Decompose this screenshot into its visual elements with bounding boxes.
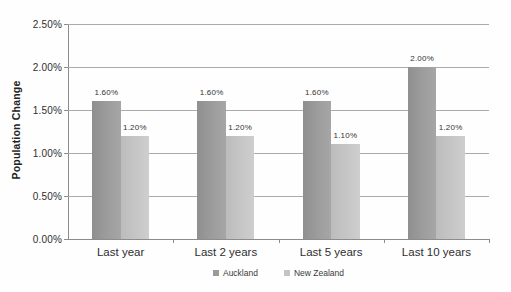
x-axis-tick [173,239,174,243]
bar-new-zealand-last-2-years [226,136,255,239]
chart-legend: AucklandNew Zealand [68,268,489,278]
y-axis-tick-label: 2.50% [0,19,62,30]
y-axis-tick [64,196,68,197]
x-axis-line [65,239,490,240]
y-axis-tick [64,110,68,111]
x-axis-category-label: Last 2 years [173,246,279,258]
x-axis-tick [489,239,490,243]
y-axis-title: Population Change [10,70,22,190]
gridline [68,24,489,25]
y-axis-tick [64,24,68,25]
population-change-bar-chart: Population Change 0.00%0.50%1.00%1.50%2.… [0,0,511,292]
y-axis-tick [64,239,68,240]
bar-new-zealand-last-year [121,136,150,239]
bar-auckland-last-10-years [408,67,437,239]
bar-value-label: 1.20% [113,123,157,132]
y-axis-tick-label: 2.00% [0,62,62,73]
y-axis-tick [64,153,68,154]
bar-new-zealand-last-5-years [331,144,360,239]
y-axis-tick [64,67,68,68]
legend-swatch-icon [284,270,290,276]
bar-auckland-last-5-years [303,101,332,239]
legend-label: Auckland [223,268,258,278]
bar-value-label: 1.60% [295,88,339,97]
x-axis-category-label: Last 5 years [278,246,384,258]
y-axis-tick-label: 0.00% [0,234,62,245]
y-axis-tick-label: 1.50% [0,105,62,116]
legend-label: New Zealand [294,268,344,278]
x-axis-category-label: Last 10 years [383,246,489,258]
bar-value-label: 1.20% [429,123,473,132]
legend-item-auckland: Auckland [213,268,258,278]
bar-value-label: 1.60% [84,88,128,97]
bar-value-label: 2.00% [400,54,444,63]
bar-value-label: 1.20% [218,123,262,132]
bar-new-zealand-last-10-years [436,136,465,239]
bar-value-label: 1.10% [323,131,367,140]
x-axis-tick [279,239,280,243]
y-axis-tick-label: 1.00% [0,148,62,159]
x-axis-category-label: Last year [68,246,174,258]
bar-value-label: 1.60% [190,88,234,97]
y-axis-tick-label: 0.50% [0,191,62,202]
x-axis-tick [384,239,385,243]
legend-item-new-zealand: New Zealand [284,268,344,278]
legend-swatch-icon [213,270,219,276]
y-axis-line [68,24,69,240]
